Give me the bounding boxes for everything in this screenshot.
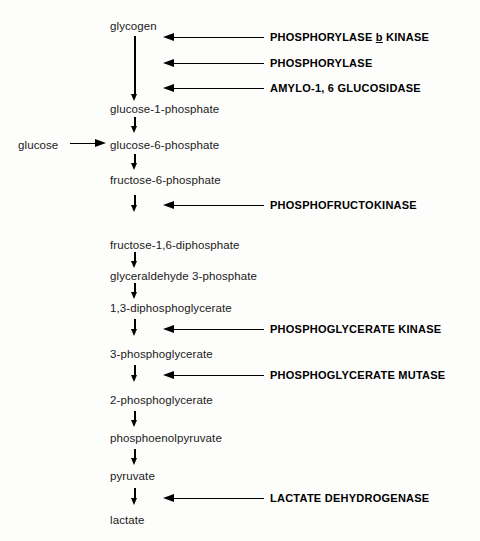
enzyme-arrow-phosphoglycerate-mutase	[163, 371, 264, 380]
enzyme-label-prefix: PHOSPHORYLASE	[270, 31, 376, 43]
entry-arrow-glucose-to-glucose-6-phosphate	[70, 139, 106, 148]
enzyme-arrow-lactate-dehydrogenase	[163, 494, 264, 503]
glycolysis-pathway-diagram: glycogen glucose-1-phosphate glucose glu…	[0, 0, 480, 541]
enzyme-arrow-phosphorylase-b-kinase	[163, 33, 264, 42]
enzyme-label-lactate-dehydrogenase: LACTATE DEHYDROGENASE	[270, 492, 429, 504]
enzyme-arrow-amylo-1-6-glucosidase	[163, 84, 264, 93]
metabolite-lactate: lactate	[110, 514, 145, 527]
metabolite-1-3-diphosphoglycerate: 1,3-diphosphoglycerate	[110, 302, 232, 315]
metabolite-fructose-1-6-diphosphate: fructose-1,6-diphosphate	[110, 239, 240, 252]
enzyme-label-phosphorylase: PHOSPHORYLASE	[270, 57, 372, 69]
metabolite-3-phosphoglycerate: 3-phosphoglycerate	[110, 348, 213, 361]
enzyme-arrow-phosphoglycerate-kinase	[163, 325, 264, 334]
enzyme-label-phosphofructokinase: PHOSPHOFRUCTOKINASE	[270, 199, 417, 211]
enzyme-arrow-phosphofructokinase	[163, 201, 264, 210]
metabolite-phosphoenolpyruvate: phosphoenolpyruvate	[110, 432, 222, 445]
metabolite-glycogen: glycogen	[110, 20, 157, 33]
enzyme-label-phosphoglycerate-kinase: PHOSPHOGLYCERATE KINASE	[270, 323, 441, 335]
enzyme-label-phosphoglycerate-mutase: PHOSPHOGLYCERATE MUTASE	[270, 369, 445, 381]
enzyme-label-amylo-1-6-glucosidase: AMYLO-1, 6 GLUCOSIDASE	[270, 82, 421, 94]
metabolite-fructose-6-phosphate: fructose-6-phosphate	[110, 174, 221, 187]
metabolite-glucose: glucose	[18, 139, 58, 152]
enzyme-arrow-phosphorylase	[163, 59, 264, 68]
metabolite-pyruvate: pyruvate	[110, 470, 155, 483]
metabolite-2-phosphoglycerate: 2-phosphoglycerate	[110, 394, 213, 407]
metabolite-glucose-6-phosphate: glucose-6-phosphate	[110, 139, 219, 152]
enzyme-label-b-subunit: b	[376, 31, 383, 43]
enzyme-label-suffix: KINASE	[383, 31, 429, 43]
metabolite-glucose-1-phosphate: glucose-1-phosphate	[110, 103, 219, 116]
metabolite-glyceraldehyde-3-phosphate: glyceraldehyde 3-phosphate	[110, 270, 257, 283]
enzyme-label-phosphorylase-b-kinase: PHOSPHORYLASE b KINASE	[270, 31, 429, 43]
